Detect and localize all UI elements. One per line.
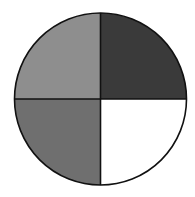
quadrant-top-left <box>15 13 101 99</box>
quadrant-bottom-right <box>101 99 187 185</box>
quadrant-bottom-left <box>15 99 101 185</box>
quartered-circle-diagram <box>0 0 195 197</box>
quadrant-top-right <box>101 13 187 99</box>
